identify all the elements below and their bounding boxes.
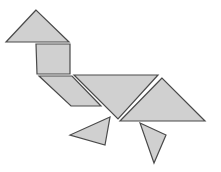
tangram-figure [0,0,221,172]
right-leg-small-triangle [140,123,166,163]
tangram-canvas [0,0,221,172]
left-leg-small-triangle [70,117,110,145]
head-triangle [6,10,69,42]
neck-square [36,44,70,74]
